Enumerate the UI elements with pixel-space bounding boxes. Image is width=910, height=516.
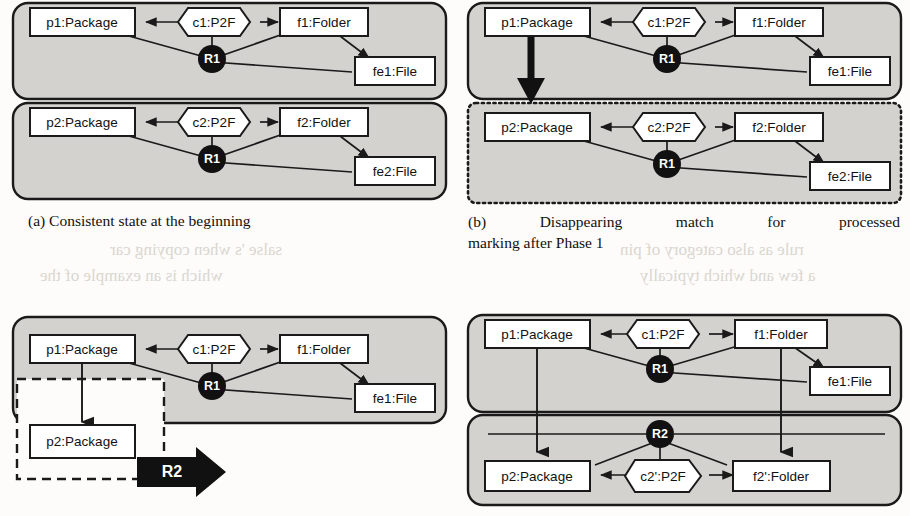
object-p2-lower[interactable]: p2:Package xyxy=(485,461,590,491)
rule-node-r1-upper[interactable]: R1 xyxy=(646,355,674,383)
rule-node-r1-upper[interactable]: R1 xyxy=(198,45,226,73)
object-label: p1:Package xyxy=(46,15,117,30)
object-label: c2':P2F xyxy=(640,469,685,484)
panel-b-diagram: p1:Package c1:P2F f1:Folder fe1:File R1 xyxy=(455,0,910,210)
object-label: p1:Package xyxy=(501,327,572,342)
object-p1-upper[interactable]: p1:Package xyxy=(30,335,135,363)
object-label: f1:Folder xyxy=(754,327,808,342)
object-label: fe1:File xyxy=(373,391,417,406)
object-c1-upper[interactable]: c1:P2F xyxy=(633,8,705,36)
rule-node-label: R1 xyxy=(652,362,668,376)
object-label: f1:Folder xyxy=(752,15,806,30)
object-label: f2:Folder xyxy=(297,115,351,130)
rule-node-r1-upper[interactable]: R1 xyxy=(653,45,681,73)
object-p2-new[interactable]: p2:Package xyxy=(30,425,135,458)
rule-node-r2-lower[interactable]: R2 xyxy=(646,420,674,448)
object-fe2-lower[interactable]: fe2:File xyxy=(810,162,890,190)
bleed-fragment: salse 's when copying car xyxy=(110,240,282,260)
object-label: fe1:File xyxy=(373,64,417,79)
rule-node-r1-lower[interactable]: R1 xyxy=(198,145,226,173)
panel-d: p1:Package c1:P2F f1:Folder fe1:File R1 xyxy=(455,312,910,516)
object-fe1-upper[interactable]: fe1:File xyxy=(355,57,435,85)
object-label: f2:Folder xyxy=(752,120,806,135)
object-label: f1:Folder xyxy=(297,15,351,30)
object-label: p2:Package xyxy=(46,434,117,449)
object-fe1-upper[interactable]: fe1:File xyxy=(810,367,890,395)
panel-a-diagram: p1:Package c1:P2F f1:Folder fe1:File R1 xyxy=(0,0,455,205)
object-label: p2:Package xyxy=(46,115,117,130)
object-label: c2:P2F xyxy=(648,120,691,135)
object-label: p1:Package xyxy=(46,342,117,357)
object-label: p1:Package xyxy=(501,15,572,30)
object-p1-upper[interactable]: p1:Package xyxy=(30,8,135,36)
object-c2-lower[interactable]: c2:P2F xyxy=(633,113,705,141)
rule-node-label: R2 xyxy=(652,427,668,441)
panel-d-diagram: p1:Package c1:P2F f1:Folder fe1:File R1 xyxy=(455,312,910,516)
object-label: p2:Package xyxy=(501,120,572,135)
object-f1-upper[interactable]: f1:Folder xyxy=(735,320,827,348)
object-fe2-lower[interactable]: fe2:File xyxy=(355,157,435,185)
object-label: c1:P2F xyxy=(642,327,685,342)
rule-node-r1-upper[interactable]: R1 xyxy=(198,372,226,400)
object-c1-upper[interactable]: c1:P2F xyxy=(178,335,250,363)
object-f2-lower[interactable]: f2:Folder xyxy=(280,108,368,136)
bleed-fragment: which is an example of the xyxy=(40,266,223,286)
object-p2-lower[interactable]: p2:Package xyxy=(485,113,590,141)
object-f2-lower[interactable]: f2:Folder xyxy=(735,113,823,141)
object-label: c1:P2F xyxy=(193,342,236,357)
object-p1-upper[interactable]: p1:Package xyxy=(485,8,590,36)
rule-node-label: R1 xyxy=(659,52,675,66)
object-f1-upper[interactable]: f1:Folder xyxy=(735,8,823,36)
panel-c: p1:Package c1:P2F f1:Folder fe1:File R1 … xyxy=(0,312,455,516)
object-fe1-upper[interactable]: fe1:File xyxy=(355,384,435,412)
object-label: f1:Folder xyxy=(297,342,351,357)
caption-a-line: (a) Consistent state at the beginning xyxy=(28,212,251,229)
object-f1-upper[interactable]: f1:Folder xyxy=(280,8,368,36)
caption-b-line1: (b) Disappearing match for processed xyxy=(468,212,900,233)
caption-a: (a) Consistent state at the beginning xyxy=(28,211,448,232)
caption-b-line2: marking after Phase 1 xyxy=(468,233,900,254)
figure-page: salse 's when copying car which is an ex… xyxy=(0,0,910,516)
panel-b: p1:Package c1:P2F f1:Folder fe1:File R1 xyxy=(455,0,910,210)
object-label: p2:Package xyxy=(501,469,572,484)
object-label: fe1:File xyxy=(828,374,872,389)
object-label: f2':Folder xyxy=(753,469,809,484)
rule-node-label: R1 xyxy=(659,157,675,171)
object-p1-upper[interactable]: p1:Package xyxy=(485,320,590,348)
rule-node-r1-lower[interactable]: R1 xyxy=(653,150,681,178)
object-label: fe1:File xyxy=(828,64,872,79)
panel-a: p1:Package c1:P2F f1:Folder fe1:File R1 xyxy=(0,0,455,205)
rule-node-label: R1 xyxy=(204,52,220,66)
object-c1-upper[interactable]: c1:P2F xyxy=(178,8,250,36)
rule-node-label: R1 xyxy=(204,379,220,393)
panel-c-diagram: p1:Package c1:P2F f1:Folder fe1:File R1 … xyxy=(0,312,455,516)
object-p2-lower[interactable]: p2:Package xyxy=(30,108,135,136)
object-label: fe2:File xyxy=(828,169,872,184)
bleed-fragment: a few and which typically xyxy=(640,266,816,286)
caption-b: (b) Disappearing match for processed mar… xyxy=(468,212,900,254)
object-f2prime-lower[interactable]: f2':Folder xyxy=(733,461,830,491)
object-label: c1:P2F xyxy=(648,15,691,30)
block-arrow-label: R2 xyxy=(162,463,183,480)
object-f1-upper[interactable]: f1:Folder xyxy=(280,335,368,363)
object-c2prime-lower[interactable]: c2':P2F xyxy=(625,460,701,492)
object-c1-upper[interactable]: c1:P2F xyxy=(627,320,699,348)
object-label: fe2:File xyxy=(373,164,417,179)
rule-node-label: R1 xyxy=(204,152,220,166)
object-c2-lower[interactable]: c2:P2F xyxy=(178,108,250,136)
object-label: c2:P2F xyxy=(193,115,236,130)
object-fe1-upper[interactable]: fe1:File xyxy=(810,57,890,85)
object-label: c1:P2F xyxy=(193,15,236,30)
